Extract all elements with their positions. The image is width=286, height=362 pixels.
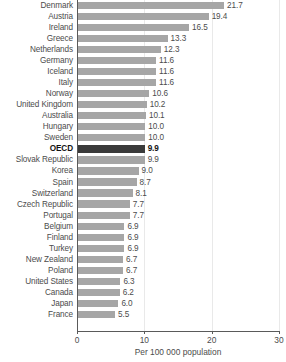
bar-category-label: OECD: [0, 143, 73, 154]
bar-value-label: 6.9: [127, 232, 138, 243]
bar-value-label: 6.9: [127, 243, 138, 254]
bar-value-label: 6.3: [123, 276, 134, 287]
bar-category-label: Sweden: [0, 132, 73, 143]
bar-row: Norway10.6: [0, 88, 286, 99]
bar-category-label: Canada: [0, 287, 73, 298]
bar-category-label: Iceland: [0, 66, 73, 77]
bar-row: Iceland11.6: [0, 66, 286, 77]
bar-category-label: Denmark: [0, 0, 73, 11]
bar-row: Slovak Republic9.9: [0, 154, 286, 165]
bar-value-label: 6.0: [121, 298, 132, 309]
bar-value-label: 10.2: [150, 99, 166, 110]
bar: [78, 300, 118, 307]
bar-row: Japan6.0: [0, 298, 286, 309]
bar-category-label: Spain: [0, 177, 73, 188]
bar-row: Switzerland8.1: [0, 188, 286, 199]
bar-category-label: Poland: [0, 265, 73, 276]
bar-category-label: Japan: [0, 298, 73, 309]
bar-value-label: 5.5: [118, 309, 129, 320]
bar-row: France5.5: [0, 309, 286, 320]
bar-value-label: 10.0: [148, 121, 164, 132]
bar-value-label: 9.9: [148, 154, 159, 165]
bar-row: Korea9.0: [0, 165, 286, 176]
bar-value-label: 9.0: [142, 165, 153, 176]
bar: [78, 57, 156, 64]
bar: [78, 24, 189, 31]
bar-category-label: United Kingdom: [0, 99, 73, 110]
bar-value-label: 8.7: [140, 177, 151, 188]
x-tick-mark: [77, 331, 78, 334]
bar-value-label: 10.0: [148, 132, 164, 143]
bar-row: Czech Republic7.7: [0, 199, 286, 210]
bar-value-label: 9.9: [148, 143, 159, 154]
bar-value-label: 6.7: [126, 254, 137, 265]
bar: [78, 267, 123, 274]
bar-category-label: Turkey: [0, 243, 73, 254]
bar: [78, 156, 145, 163]
bar-value-label: 13.3: [171, 33, 187, 44]
bar-value-label: 10.6: [152, 88, 168, 99]
bar-row: Belgium6.9: [0, 221, 286, 232]
x-tick-mark: [279, 331, 280, 334]
bar: [78, 35, 168, 42]
bar-chart: Denmark21.7Austria19.4Ireland16.5Greece1…: [0, 0, 286, 362]
x-tick-label: 30: [274, 335, 283, 345]
bar: [78, 189, 133, 196]
bar-category-label: Switzerland: [0, 188, 73, 199]
bar-category-label: Korea: [0, 165, 73, 176]
x-axis-label: Per 100 000 population: [77, 347, 279, 357]
bar-category-label: France: [0, 309, 73, 320]
bar: [78, 212, 130, 219]
x-axis-ticks: 0102030: [0, 331, 286, 341]
bar-category-label: Greece: [0, 33, 73, 44]
x-tick-mark: [212, 331, 213, 334]
bar: [78, 13, 209, 20]
bar: [78, 46, 161, 53]
bar-row: Austria19.4: [0, 11, 286, 22]
bar-row: Italy11.6: [0, 77, 286, 88]
bar: [78, 79, 156, 86]
x-tick-label: 20: [207, 335, 216, 345]
bar-category-label: Australia: [0, 110, 73, 121]
bar-row: New Zealand6.7: [0, 254, 286, 265]
bar-value-label: 6.2: [123, 287, 134, 298]
bar: [78, 134, 145, 141]
bar-row: Finland6.9: [0, 232, 286, 243]
bar-row: Denmark21.7: [0, 0, 286, 11]
bar-value-label: 6.7: [126, 265, 137, 276]
bar-row: Spain8.7: [0, 177, 286, 188]
bar-row: Netherlands12.3: [0, 44, 286, 55]
bar: [78, 112, 146, 119]
bar-row: Australia10.1: [0, 110, 286, 121]
bar: [78, 256, 123, 263]
bar-row: OECD9.9: [0, 143, 286, 154]
bar-value-label: 11.6: [159, 55, 174, 66]
bar: [78, 167, 139, 174]
bar-value-label: 11.6: [159, 77, 174, 88]
bar-rows: Denmark21.7Austria19.4Ireland16.5Greece1…: [0, 0, 286, 331]
bar-row: Greece13.3: [0, 33, 286, 44]
bar-row: Canada6.2: [0, 287, 286, 298]
bar-category-label: Slovak Republic: [0, 154, 73, 165]
bar: [78, 68, 156, 75]
bar-category-label: Italy: [0, 77, 73, 88]
bar-category-label: Austria: [0, 11, 73, 22]
bar: [78, 101, 147, 108]
bar-value-label: 16.5: [192, 22, 208, 33]
bar-category-label: Germany: [0, 55, 73, 66]
bar: [78, 234, 124, 241]
bar: [78, 245, 124, 252]
bar-value-label: 10.1: [149, 110, 165, 121]
bar-category-label: United States: [0, 276, 73, 287]
bar-category-label: Belgium: [0, 221, 73, 232]
bar-value-label: 7.7: [133, 210, 144, 221]
bar-row: Poland6.7: [0, 265, 286, 276]
bar: [78, 145, 145, 152]
x-tick-label: 0: [75, 335, 80, 345]
bar-category-label: Netherlands: [0, 44, 73, 55]
bar-category-label: Portugal: [0, 210, 73, 221]
x-tick-mark: [144, 331, 145, 334]
bar-category-label: Finland: [0, 232, 73, 243]
bar-value-label: 7.7: [133, 199, 144, 210]
bar-category-label: Czech Republic: [0, 199, 73, 210]
